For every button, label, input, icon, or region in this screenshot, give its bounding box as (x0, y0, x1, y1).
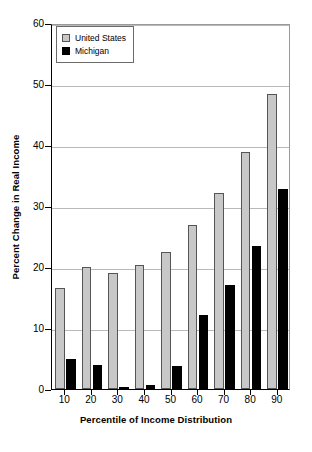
y-axis-tick-mark (45, 390, 51, 391)
bar-united-states-90 (267, 94, 277, 389)
bar-group (108, 25, 129, 389)
x-axis-title: Percentile of Income Distribution (0, 414, 312, 425)
bar-group (267, 25, 288, 389)
bar-united-states-40 (135, 265, 145, 389)
bar-series-container (52, 25, 289, 389)
bar-group (188, 25, 209, 389)
y-axis-tick-mark (45, 329, 51, 330)
x-axis-tick-label: 30 (105, 394, 129, 406)
y-axis-tick-label: 30 (20, 202, 44, 212)
bar-united-states-20 (82, 267, 92, 389)
y-axis-tick-mark (45, 146, 51, 147)
y-axis-tick-label: 40 (20, 141, 44, 151)
bar-united-states-70 (214, 193, 224, 389)
x-axis-tick-label: 80 (238, 394, 262, 406)
bar-group (241, 25, 262, 389)
legend-swatch-icon (62, 34, 70, 42)
bar-michigan-80 (252, 246, 262, 389)
x-axis-tick-mark (171, 390, 172, 395)
bar-united-states-80 (241, 152, 251, 389)
legend-item-label: United States (75, 34, 126, 43)
bar-group (161, 25, 182, 389)
y-axis-tick-mark (45, 268, 51, 269)
x-axis-tick-mark (224, 390, 225, 395)
x-axis-tick-label: 70 (212, 394, 236, 406)
x-axis-tick-label: 90 (265, 394, 289, 406)
x-axis-tick-mark (117, 390, 118, 395)
bar-michigan-50 (172, 366, 182, 389)
y-axis-tick-mark (45, 207, 51, 208)
bar-michigan-60 (199, 315, 209, 389)
chart-figure: Percent Change in Real Income 0102030405… (0, 0, 312, 452)
x-axis-tick-mark (250, 390, 251, 395)
bar-michigan-20 (93, 365, 103, 389)
legend-item-michigan: Michigan (62, 45, 126, 57)
x-axis-tick-label: 50 (159, 394, 183, 406)
x-axis-tick-label: 20 (79, 394, 103, 406)
bar-united-states-50 (161, 252, 171, 389)
bar-united-states-10 (55, 288, 65, 389)
y-axis-tick-label: 50 (20, 80, 44, 90)
x-axis-tick-mark (144, 390, 145, 395)
y-axis-tick-label: 0 (20, 385, 44, 395)
y-axis-tick-label: 20 (20, 263, 44, 273)
legend-item-united-states: United States (62, 32, 126, 44)
bar-michigan-40 (146, 385, 156, 389)
x-axis-tick-label: 40 (132, 394, 156, 406)
y-axis-tick-labels: 0102030405060 (20, 0, 44, 452)
bar-michigan-30 (119, 387, 129, 389)
y-axis-tick-mark (45, 85, 51, 86)
x-axis-tick-mark (64, 390, 65, 395)
bar-group (82, 25, 103, 389)
legend-swatch-icon (62, 47, 70, 55)
bar-michigan-70 (225, 285, 235, 389)
y-axis-tick-label: 60 (20, 19, 44, 29)
y-axis-tick-mark (45, 24, 51, 25)
bar-michigan-10 (66, 359, 76, 390)
x-axis-tick-mark (197, 390, 198, 395)
bar-group (135, 25, 156, 389)
plot-area (51, 24, 290, 390)
bar-united-states-30 (108, 273, 118, 389)
y-axis-tick-label: 10 (20, 324, 44, 334)
x-axis-tick-mark (277, 390, 278, 395)
bar-group (214, 25, 235, 389)
x-axis-tick-label: 10 (52, 394, 76, 406)
bar-michigan-90 (278, 189, 288, 389)
legend-item-label: Michigan (75, 47, 109, 56)
bar-united-states-60 (188, 225, 198, 389)
chart-legend: United StatesMichigan (56, 26, 134, 63)
x-axis-tick-labels: 102030405060708090 (51, 394, 290, 408)
x-axis-tick-mark (91, 390, 92, 395)
bar-group (55, 25, 76, 389)
x-axis-tick-label: 60 (185, 394, 209, 406)
